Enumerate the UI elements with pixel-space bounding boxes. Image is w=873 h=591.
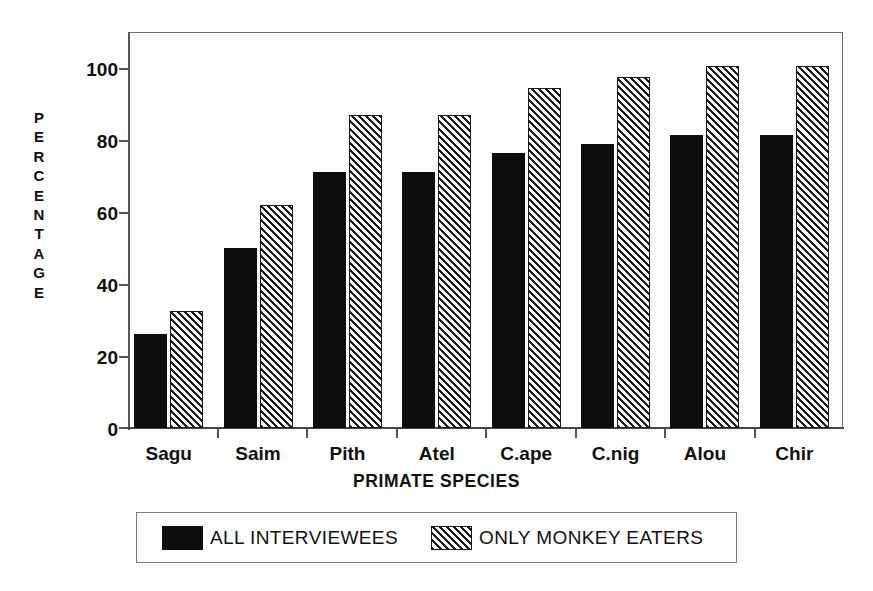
x-tick-label-saim: Saim	[212, 443, 305, 465]
x-tick-label-sagu: Sagu	[122, 443, 215, 465]
bar-chir-all-interviewees	[760, 135, 793, 428]
bar-sagu-all-interviewees	[134, 334, 167, 428]
y-axis-tick-labels: 100 80 60 40 20 0	[46, 0, 118, 591]
x-tick-mark	[485, 429, 487, 438]
x-tick-mark	[396, 429, 398, 438]
y-tick-label-0: 0	[46, 419, 118, 441]
y-tick-label-80: 80	[46, 131, 118, 153]
y-tick-label-40: 40	[46, 275, 118, 297]
bar-alou-only-monkey-eaters	[706, 66, 739, 428]
legend-entry-only-monkey-eaters[interactable]: ONLY MONKEY EATERS	[431, 524, 703, 551]
bar-group	[224, 32, 293, 428]
bar-group	[313, 32, 382, 428]
x-axis-title: PRIMATE SPECIES	[0, 471, 873, 492]
x-tick-label-chir: Chir	[748, 443, 841, 465]
x-tick-mark	[306, 429, 308, 438]
bar-group	[492, 32, 561, 428]
x-tick-label-alou: Alou	[658, 443, 751, 465]
bar-chart-figure: P E R C E N T A G E 100 80 60 40 20 0	[0, 0, 873, 591]
bar-group	[134, 32, 203, 428]
bar-group	[581, 32, 650, 428]
y-tick-label-100: 100	[46, 59, 118, 81]
x-tick-mark	[575, 429, 577, 438]
x-tick-mark	[754, 429, 756, 438]
y-tick-label-60: 60	[46, 203, 118, 225]
bar-saim-only-monkey-eaters	[260, 205, 293, 428]
x-tick-label-c-nig: C.nig	[569, 443, 662, 465]
legend-label: ONLY MONKEY EATERS	[479, 527, 703, 549]
legend-swatch-hatch-icon	[431, 526, 472, 550]
legend-entry-all-interviewees[interactable]: ALL INTERVIEWEES	[162, 524, 398, 551]
bar-atel-all-interviewees	[402, 172, 435, 428]
bar-saim-all-interviewees	[224, 248, 257, 428]
bar-atel-only-monkey-eaters	[438, 115, 471, 428]
bar-group	[760, 32, 829, 428]
x-tick-mark	[217, 429, 219, 438]
bar-alou-all-interviewees	[670, 135, 703, 428]
bar-chir-only-monkey-eaters	[796, 66, 829, 428]
bar-series-container	[128, 32, 843, 428]
bar-group	[402, 32, 471, 428]
bar-group	[670, 32, 739, 428]
bar-c-nig-all-interviewees	[581, 144, 614, 428]
legend-swatch-solid-icon	[162, 526, 203, 550]
bar-pith-all-interviewees	[313, 172, 346, 428]
x-tick-label-pith: Pith	[301, 443, 394, 465]
bar-c-ape-all-interviewees	[492, 153, 525, 428]
bar-sagu-only-monkey-eaters	[170, 311, 203, 428]
y-tick-label-20: 20	[46, 347, 118, 369]
bar-c-ape-only-monkey-eaters	[528, 88, 561, 428]
bar-pith-only-monkey-eaters	[349, 115, 382, 428]
x-tick-mark	[664, 429, 666, 438]
chart-legend: ALL INTERVIEWEES ONLY MONKEY EATERS	[136, 512, 737, 563]
x-tick-label-c-ape: C.ape	[480, 443, 573, 465]
bar-c-nig-only-monkey-eaters	[617, 77, 650, 428]
legend-label: ALL INTERVIEWEES	[210, 527, 398, 549]
x-tick-label-atel: Atel	[390, 443, 483, 465]
